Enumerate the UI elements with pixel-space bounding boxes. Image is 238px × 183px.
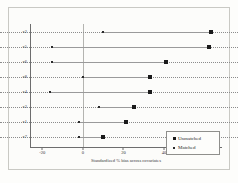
legend-item-unmatched: Unmatched [170,134,216,143]
data-point-matched [51,61,53,63]
legend-label-matched: Matched [178,145,196,150]
y-axis-tick-label: x6 [23,59,27,63]
legend-marker-matched-icon [170,147,178,149]
y-axis-tick-label: x8 [23,74,27,78]
connector-line [79,122,126,123]
y-axis-tick-label: x4 [23,89,27,93]
x-axis-tick-label: 20 [121,151,126,156]
connector-line [83,77,150,78]
legend-marker-unmatched-icon [170,137,178,140]
zero-reference-line [83,24,84,147]
data-point-unmatched [164,60,168,64]
data-point-matched [49,91,51,93]
figure-container: x2x5x6x8x4x3x1x7 -200204060 Standardized… [0,0,238,183]
data-point-unmatched [124,120,128,124]
chart-legend: Unmatched Matched [166,131,220,155]
legend-label-unmatched: Unmatched [178,136,201,141]
x-axis-tick-label: -20 [39,151,45,156]
connector-line [50,92,150,93]
data-point-matched [78,121,80,123]
data-point-unmatched [209,30,213,34]
data-point-unmatched [148,75,152,79]
y-axis-tick-label: x7 [23,134,27,138]
data-point-unmatched [148,90,152,94]
plot-area [30,24,221,144]
y-axis-tick-label: x3 [23,104,27,108]
data-point-unmatched [101,135,105,139]
connector-line [79,137,103,138]
connector-line [52,47,208,48]
connector-line [99,107,134,108]
x-axis-tick-label: 0 [82,151,84,156]
connector-line [103,32,211,33]
connector-line [52,62,166,63]
data-point-matched [98,106,100,108]
data-point-matched [102,31,104,33]
x-axis-title: Standardized % bias across covariates [30,159,222,164]
y-axis-line [30,24,31,147]
y-axis-tick-label: x5 [23,44,27,48]
data-point-matched [82,76,84,78]
y-axis-tick-label: x1 [23,119,27,123]
data-point-unmatched [132,105,136,109]
data-point-unmatched [207,45,211,49]
data-point-matched [51,46,53,48]
y-axis-tick-label: x2 [23,29,27,33]
legend-item-matched: Matched [170,143,216,152]
data-point-matched [78,136,80,138]
